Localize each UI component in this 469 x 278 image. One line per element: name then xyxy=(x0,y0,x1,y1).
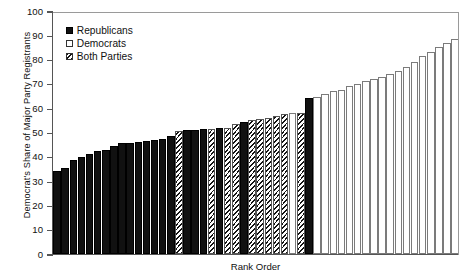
y-axis-title: Democrat's Share of Major Party Registra… xyxy=(22,0,32,250)
bar xyxy=(281,114,289,254)
bar xyxy=(330,91,338,254)
bar xyxy=(427,52,435,254)
legend-item-both: Both Parties xyxy=(66,51,133,63)
bar xyxy=(86,154,94,254)
bar xyxy=(419,56,427,254)
bar xyxy=(53,171,61,254)
y-axis-tick-mark xyxy=(47,133,53,134)
y-axis-tick-mark xyxy=(47,206,53,207)
bar xyxy=(135,142,143,254)
bar xyxy=(183,130,191,254)
y-axis-tick-mark xyxy=(47,60,53,61)
bar xyxy=(289,113,297,254)
bar xyxy=(208,129,216,254)
bar xyxy=(435,47,443,254)
bar xyxy=(78,157,86,254)
y-axis-tick-label: 70 xyxy=(32,78,43,89)
bar xyxy=(370,79,378,254)
bar xyxy=(362,81,370,254)
bar xyxy=(313,97,321,254)
bar xyxy=(395,71,403,254)
bar xyxy=(200,129,208,254)
bar xyxy=(240,122,248,254)
bar xyxy=(346,86,354,254)
bar xyxy=(110,146,118,254)
y-axis-tick-label: 60 xyxy=(32,103,43,114)
y-axis-tick-mark xyxy=(47,84,53,85)
y-axis-tick-mark xyxy=(47,11,53,12)
legend-swatch-icon xyxy=(66,27,73,34)
bar xyxy=(70,160,78,254)
bar xyxy=(443,43,451,254)
y-axis-tick-label: 30 xyxy=(32,176,43,187)
bar xyxy=(224,128,232,254)
chart-legend: RepublicansDemocratsBoth Parties xyxy=(66,25,133,63)
y-axis-tick-mark xyxy=(47,182,53,183)
bar xyxy=(216,128,224,254)
y-axis-tick-label: 10 xyxy=(32,224,43,235)
legend-item-label: Democrats xyxy=(77,38,126,49)
bar xyxy=(411,62,419,254)
y-axis-tick-mark xyxy=(47,254,53,255)
legend-item-dem: Democrats xyxy=(66,38,133,50)
bar xyxy=(159,139,167,254)
y-axis-tick-label: 90 xyxy=(32,30,43,41)
plot-right-border xyxy=(458,12,459,255)
bar xyxy=(143,141,151,254)
bar xyxy=(338,90,346,254)
y-axis-tick-mark xyxy=(47,230,53,231)
legend-item-label: Republicans xyxy=(77,25,133,36)
bar xyxy=(118,143,126,254)
legend-item-label: Both Parties xyxy=(77,51,133,62)
y-axis-tick-label: 40 xyxy=(32,151,43,162)
bar xyxy=(151,140,159,254)
bar xyxy=(403,67,411,254)
bar xyxy=(386,74,394,254)
bar xyxy=(354,84,362,254)
bar xyxy=(102,150,110,254)
bar-chart: Democrat's Share of Major Party Registra… xyxy=(0,0,469,278)
x-axis-title: Rank Order xyxy=(52,261,459,272)
bar xyxy=(273,116,281,255)
bar xyxy=(256,119,264,254)
y-axis-tick-label: 50 xyxy=(32,127,43,138)
y-axis-tick-label: 80 xyxy=(32,54,43,65)
bar xyxy=(305,98,313,254)
bar xyxy=(126,143,134,254)
legend-swatch-icon xyxy=(66,40,73,47)
bar xyxy=(232,124,240,254)
bar xyxy=(378,77,386,254)
y-axis-tick-label: 100 xyxy=(27,6,43,17)
bar xyxy=(175,131,183,254)
y-axis-tick-label: 0 xyxy=(38,249,43,260)
bar xyxy=(94,151,102,254)
legend-item-rep: Republicans xyxy=(66,25,133,37)
y-axis-tick-mark xyxy=(47,157,53,158)
plot-top-border xyxy=(52,12,459,13)
bar xyxy=(297,113,305,254)
bar xyxy=(61,168,69,254)
y-axis-tick-mark xyxy=(47,36,53,37)
bar xyxy=(167,136,175,254)
bar xyxy=(191,130,199,254)
bar xyxy=(248,120,256,254)
y-axis-tick-label: 20 xyxy=(32,200,43,211)
legend-swatch-icon xyxy=(66,53,73,60)
y-axis-tick-mark xyxy=(47,109,53,110)
bar xyxy=(321,94,329,254)
bar xyxy=(265,118,273,254)
